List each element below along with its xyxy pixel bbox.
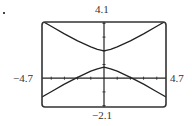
graph-plot-area	[0, 0, 192, 126]
axes	[42, 22, 166, 107]
